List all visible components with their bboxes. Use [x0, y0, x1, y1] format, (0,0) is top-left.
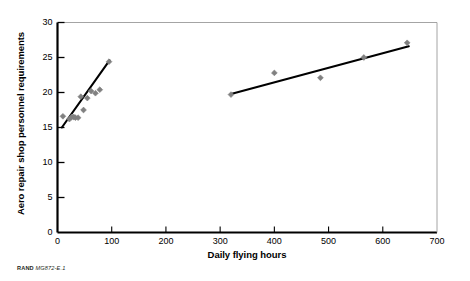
- data-point: [404, 40, 410, 46]
- x-tick-label: 400: [259, 236, 289, 246]
- y-axis-title: Aero repair shop personnel requirements: [15, 9, 26, 239]
- x-tick-label: 700: [422, 236, 452, 246]
- x-tick-label: 500: [314, 236, 344, 246]
- data-point: [81, 107, 87, 113]
- y-tick-label: 25: [31, 52, 53, 62]
- figure-container: Aero repair shop personnel requirements …: [0, 0, 470, 281]
- axis-ticks: [58, 23, 383, 233]
- y-tick-label: 20: [31, 87, 53, 97]
- y-tick-label: 15: [31, 122, 53, 132]
- y-tick-label: 30: [31, 17, 53, 27]
- x-tick-label: 100: [97, 236, 127, 246]
- data-point: [318, 75, 324, 81]
- x-tick-label: 0: [43, 236, 73, 246]
- y-tick-label: 5: [31, 192, 53, 202]
- caption-organization: RAND: [17, 265, 35, 271]
- x-axis-title: Daily flying hours: [57, 249, 437, 260]
- data-markers: [60, 40, 410, 122]
- figure-caption: RAND MG872-E.1: [17, 265, 65, 271]
- y-tick-label: 10: [31, 157, 53, 167]
- x-tick-label: 600: [368, 236, 398, 246]
- data-point: [271, 70, 277, 76]
- trend-lines: [62, 46, 409, 127]
- data-point: [60, 113, 66, 119]
- trend-line: [231, 46, 409, 94]
- data-point: [97, 87, 103, 93]
- x-tick-label: 200: [151, 236, 181, 246]
- x-tick-label: 300: [205, 236, 235, 246]
- caption-identifier: MG872-E.1: [35, 265, 65, 271]
